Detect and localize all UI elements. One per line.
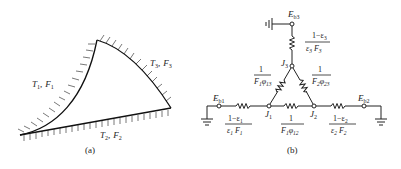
fraction-r12: 1 F1φ12 [280, 114, 304, 136]
ground-left-icon [201, 119, 213, 125]
svg-text:F1φ13: F1φ13 [253, 77, 272, 87]
resistor-r2 [331, 104, 345, 109]
fraction-r3: 1−ε3 ε3F3 [305, 31, 330, 54]
svg-text:1: 1 [259, 65, 263, 74]
label-surface-3: T3,F3 [150, 58, 172, 69]
fraction-r1: 1−ε1 ε1F1 [225, 114, 252, 136]
fraction-r2: 1−ε2 ε2F2 [329, 114, 356, 136]
svg-text:F1φ12: F1φ12 [280, 126, 299, 136]
fraction-r13: 1 F1φ13 [253, 65, 272, 87]
label-surface-2: T2,F2 [100, 130, 122, 141]
node-eb3 [290, 22, 294, 26]
node-eb2 [362, 104, 366, 108]
node-j1 [267, 104, 271, 108]
node-eb1 [217, 104, 221, 108]
svg-text:1−ε1: 1−ε1 [228, 114, 243, 124]
svg-text:1−ε2: 1−ε2 [333, 114, 348, 124]
node-j2 [312, 104, 316, 108]
caption-b: (b) [287, 145, 298, 155]
svg-text:1: 1 [318, 65, 322, 74]
label-j1: J1 [265, 109, 272, 120]
label-j3: J3 [281, 58, 288, 69]
resistor-r3 [290, 36, 295, 50]
svg-text:ε1F1: ε1F1 [227, 126, 243, 136]
resistor-r12 [284, 104, 298, 109]
label-eb1: Eb1 [212, 93, 225, 104]
svg-text:1−ε3: 1−ε3 [312, 31, 327, 41]
surface-3-curve [97, 40, 171, 108]
label-j2: J2 [310, 109, 317, 120]
radiation-network-figure: T1,F1 T3,F3 T2,F2 (a) [0, 0, 401, 169]
svg-text:ε3F3: ε3F3 [306, 44, 322, 54]
svg-text:1: 1 [289, 114, 293, 123]
label-eb2: Eb2 [357, 93, 370, 104]
resistor-r13 [275, 79, 286, 94]
ground-right-icon [375, 119, 387, 125]
ground-top-icon [266, 18, 272, 30]
svg-text:F2φ23: F2φ23 [311, 77, 330, 87]
resistor-r1 [236, 104, 250, 109]
fraction-r23: 1 F2φ23 [311, 65, 331, 87]
enclosure-diagram: T1,F1 T3,F3 T2,F2 (a) [18, 35, 172, 155]
caption-a: (a) [85, 145, 95, 155]
network-diagram: Eb3 Eb1 Eb2 J3 J1 J2 1−ε3 ε3F3 1 F1φ13 1… [201, 9, 387, 155]
node-j3 [290, 64, 294, 68]
label-surface-1: T1,F1 [32, 79, 54, 90]
hatching-surface-1 [18, 44, 95, 132]
resistor-r23 [298, 79, 309, 94]
svg-text:ε2F2: ε2F2 [331, 126, 347, 136]
label-eb3: Eb3 [287, 9, 300, 20]
